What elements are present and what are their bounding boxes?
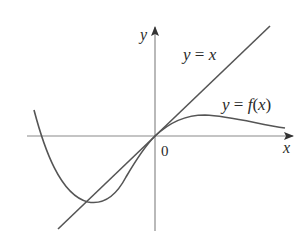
identity-label-eq: = [191,45,209,64]
function-graph-figure: y x 0 y = x y = f(x) [0,0,308,246]
function-curve-label: y = f(x) [220,95,271,114]
identity-line-label: y = x [181,45,217,64]
function-label-close: ) [266,95,272,114]
function-label-eq: = [230,95,248,114]
graph-canvas: y x 0 y = x y = f(x) [0,0,308,246]
function-curve [34,110,285,203]
identity-label-lhs: y [181,45,191,64]
function-label-lhs: y [220,95,230,114]
identity-line [58,26,270,229]
origin-label: 0 [161,143,169,159]
x-axis-label: x [282,139,290,156]
identity-label-rhs: x [208,45,217,64]
y-axis-label: y [138,26,148,44]
